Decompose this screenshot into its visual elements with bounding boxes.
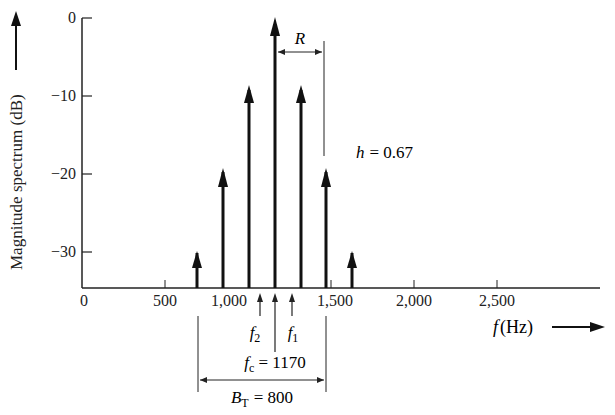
y-axis-arrow-icon	[11, 11, 21, 26]
spectrum-chart: Magnitude spectrum (dB) 0 −10 −20 −30 0 …	[0, 0, 615, 415]
y-tick-0: 0	[68, 9, 76, 26]
y-axis-title-text: Magnitude spectrum (dB)	[7, 94, 26, 270]
x-tick-500: 500	[153, 292, 177, 309]
x-tick-1500: 1,500	[317, 292, 353, 309]
arrowhead-icon	[192, 251, 202, 268]
arrow-right-icon	[315, 49, 322, 55]
y-axis-title: Magnitude spectrum (dB)	[7, 11, 26, 270]
x-tick-0: 0	[80, 292, 88, 309]
f1-label: f1	[288, 323, 299, 345]
arrowhead-icon	[347, 251, 357, 268]
arrow-right-icon	[317, 377, 324, 383]
y-tick-minus30: −30	[51, 243, 76, 260]
arrow-left-icon	[200, 377, 207, 383]
x-ticks: 0 500 1,000 1,500 2,000 2,500	[80, 280, 515, 309]
y-ticks: 0 −10 −20 −30	[51, 9, 92, 260]
arrowhead-icon	[270, 17, 280, 36]
h-annotation: h= 0.67	[356, 143, 414, 162]
spectral-lines	[192, 17, 357, 288]
arrow-left-icon	[278, 49, 285, 55]
x-axis-title: f(Hz)	[493, 317, 605, 338]
y-tick-minus10: −10	[51, 87, 76, 104]
x-tick-2500: 2,500	[479, 292, 515, 309]
x-tick-2000: 2,000	[396, 292, 432, 309]
arrowhead-icon	[244, 85, 254, 103]
f-markers: f2 f1 fc= 1170	[244, 293, 305, 375]
x-axis-title-text: f(Hz)	[493, 317, 533, 338]
f2-label: f2	[250, 323, 261, 345]
h-value: = 0.67	[370, 143, 414, 162]
x-axis-arrow-icon	[590, 322, 605, 332]
y-tick-minus20: −20	[51, 165, 76, 182]
fc-arrow-icon	[272, 293, 278, 302]
fc-label: fc= 1170	[244, 353, 305, 375]
f1-arrow-icon	[289, 293, 295, 302]
h-label: h= 0.67	[356, 143, 414, 162]
f2-arrow-icon	[257, 293, 263, 302]
x-tick-1000: 1,000	[211, 292, 247, 309]
h-symbol: h	[356, 143, 365, 162]
arrowhead-icon	[218, 168, 228, 187]
arrowhead-icon	[321, 168, 331, 187]
r-label: R	[294, 29, 306, 48]
bt-label: BT= 800	[231, 388, 293, 410]
arrowhead-icon	[296, 85, 306, 103]
